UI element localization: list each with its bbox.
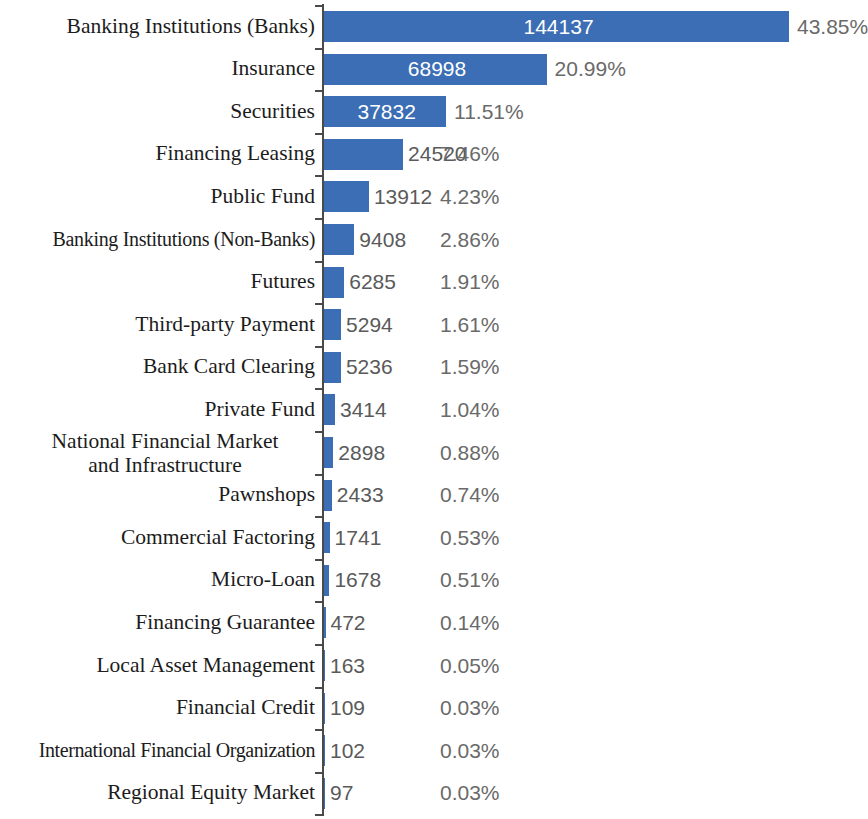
category-label: National Financial Market and Infrastruc…	[15, 429, 315, 477]
bar-percent-label: 0.14%	[440, 612, 500, 633]
category-label: Banking Institutions (Non-Banks)	[0, 227, 315, 251]
category-label: Commercial Factoring	[0, 525, 315, 549]
bar	[324, 607, 326, 638]
bar	[324, 394, 335, 425]
bar-value-label: 68998	[408, 58, 466, 79]
axis-tick	[315, 261, 323, 263]
axis-tick	[315, 346, 323, 348]
bar-percent-label: 1.61%	[440, 314, 500, 335]
category-label: Financial Credit	[0, 695, 315, 719]
bar	[324, 693, 325, 724]
bar	[324, 522, 330, 553]
bar	[324, 352, 341, 383]
bar-value-label: 3414	[340, 399, 387, 420]
bar-value-label: 97	[330, 782, 353, 803]
category-label: Public Fund	[0, 184, 315, 208]
bar-percent-label: 0.88%	[440, 442, 500, 463]
axis-tick	[315, 90, 323, 92]
bar-percent-label: 11.51%	[454, 101, 524, 122]
category-label: Micro-Loan	[0, 567, 315, 591]
bar	[324, 224, 354, 255]
axis-tick	[315, 601, 323, 603]
bar-value-label: 2898	[338, 442, 385, 463]
bar-percent-label: 0.74%	[440, 484, 500, 505]
bar-percent-label: 0.51%	[440, 569, 500, 590]
axis-tick	[315, 431, 323, 433]
category-label: Securities	[0, 99, 315, 123]
bar	[324, 139, 403, 170]
axis-tick	[315, 729, 323, 731]
bar	[324, 437, 333, 468]
axis-tick	[315, 48, 323, 50]
bar-percent-label: 1.91%	[440, 271, 500, 292]
bar-value-label: 5294	[346, 314, 393, 335]
axis-tick	[315, 218, 323, 220]
axis-tick	[315, 814, 323, 816]
axis-tick	[315, 516, 323, 518]
bar-value-label: 144137	[524, 16, 594, 37]
category-label: Insurance	[0, 56, 315, 80]
bar-percent-label: 43.85%	[797, 16, 868, 37]
bar	[324, 267, 344, 298]
bar-percent-label: 7.46%	[440, 143, 500, 164]
bar	[324, 735, 325, 766]
axis-tick	[315, 175, 323, 177]
bar-percent-label: 0.05%	[440, 655, 500, 676]
category-label: Bank Card Clearing	[0, 354, 315, 378]
bar-percent-label: 0.53%	[440, 527, 500, 548]
bar	[324, 309, 341, 340]
category-label: Financing Leasing	[0, 141, 315, 165]
axis-tick	[315, 388, 323, 390]
bar	[324, 181, 369, 212]
bar-percent-label: 0.03%	[440, 740, 500, 761]
bar	[324, 778, 325, 809]
bar	[324, 565, 329, 596]
category-label: Banking Institutions (Banks)	[0, 14, 315, 38]
bar-percent-label: 2.86%	[440, 229, 500, 250]
bar-percent-label: 0.03%	[440, 782, 500, 803]
bar-value-label: 9408	[359, 229, 406, 250]
bar-value-label: 163	[330, 655, 365, 676]
bar-value-label: 472	[331, 612, 366, 633]
axis-tick	[315, 559, 323, 561]
bar	[324, 480, 332, 511]
bar-value-label: 102	[330, 740, 365, 761]
axis-tick	[315, 644, 323, 646]
axis-tick	[315, 772, 323, 774]
category-label: Third-party Payment	[0, 312, 315, 336]
bar-value-label: 5236	[346, 356, 393, 377]
bar-percent-label: 0.03%	[440, 697, 500, 718]
bar-percent-label: 20.99%	[555, 58, 626, 79]
axis-tick	[315, 687, 323, 689]
bar	[324, 650, 325, 681]
bar-percent-label: 4.23%	[440, 186, 500, 207]
axis-tick	[315, 474, 323, 476]
category-label: Private Fund	[0, 397, 315, 421]
bar-value-label: 2433	[337, 484, 384, 505]
axis-tick	[315, 303, 323, 305]
category-label: Pawnshops	[0, 482, 315, 506]
category-label: International Financial Organization	[0, 738, 315, 762]
bar-value-label: 1678	[334, 569, 381, 590]
bar-value-label: 37832	[358, 101, 416, 122]
category-label: Local Asset Management	[0, 653, 315, 677]
bar-percent-label: 1.59%	[440, 356, 500, 377]
category-label: Futures	[0, 269, 315, 293]
bar-value-label: 1741	[335, 527, 382, 548]
axis-tick	[315, 5, 323, 7]
category-label: Regional Equity Market	[0, 780, 315, 804]
axis-tick	[315, 133, 323, 135]
bar-value-label: 6285	[349, 271, 396, 292]
category-label: Financing Guarantee	[0, 610, 315, 634]
bar-value-label: 13912	[374, 186, 432, 207]
bar-percent-label: 1.04%	[440, 399, 500, 420]
bar-value-label: 109	[330, 697, 365, 718]
